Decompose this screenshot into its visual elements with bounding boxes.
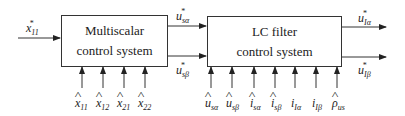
label-usb-est: usβ [226, 97, 239, 112]
block-title-line1: LC filter [252, 22, 297, 42]
label-usa-ref: usα* [176, 8, 185, 25]
block-title-line2: control system [236, 42, 312, 62]
label-x12-est: x12 [96, 97, 109, 112]
label-iIa: iIα [291, 97, 301, 112]
label-isa-est: isα [250, 97, 261, 112]
label-x11-ref: x11* [26, 20, 34, 37]
multiscalar-control-block: Multiscalar control system [61, 15, 168, 67]
block-title-line2: control system [76, 41, 152, 61]
label-uIa-ref: uIα* [358, 10, 367, 27]
label-x22-est: x22 [138, 97, 151, 112]
label-rho-us-est: ρus [332, 97, 345, 112]
label-iIb: iIβ [312, 97, 322, 112]
label-x11-est: x11 [75, 97, 88, 112]
lc-filter-control-block: LC filter control system [207, 16, 342, 67]
label-uIb-ref: uIβ* [358, 62, 367, 79]
label-x21-est: x21 [117, 97, 130, 112]
label-usb-ref: usβ* [176, 62, 185, 79]
label-usa-est: usα [205, 97, 218, 112]
block-title-line1: Multiscalar [85, 21, 144, 41]
label-isb-est: isβ [271, 97, 281, 112]
